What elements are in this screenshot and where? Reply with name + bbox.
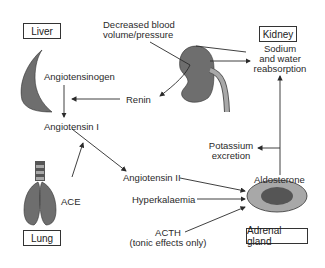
decreased-bp-line2: volume/pressure xyxy=(103,30,173,40)
lung-label-box: Lung xyxy=(23,230,61,246)
kidney-icon xyxy=(180,46,227,112)
lung-icon xyxy=(24,161,56,225)
kidney-label-box: Kidney xyxy=(259,26,297,42)
sodium-line3: reabsorption xyxy=(250,64,310,74)
acth-line2: (tonic effects only) xyxy=(128,238,208,248)
liver-label-box: Liver xyxy=(23,23,61,39)
sodium-reabsorption-label: Sodium and water reabsorption xyxy=(250,44,310,74)
adrenal-label-box: Adrenal gland xyxy=(246,228,308,244)
aldosterone-label: Aldosterone xyxy=(254,175,305,185)
ace-label: ACE xyxy=(61,197,81,207)
angiotensin-ii-label: Angiotensin II xyxy=(123,173,181,183)
decreased-bp-label: Decreased blood volume/pressure xyxy=(103,20,173,40)
hyperkalaemia-label: Hyperkalaemia xyxy=(132,195,195,205)
potassium-excretion-label: Potassium excretion xyxy=(206,141,256,161)
potassium-line2: excretion xyxy=(206,151,256,161)
acth-label: ACTH (tonic effects only) xyxy=(128,228,208,248)
angiotensinogen-label: Angiotensinogen xyxy=(44,72,115,82)
renin-label: Renin xyxy=(126,95,151,105)
angiotensin-i-label: Angiotensin I xyxy=(44,122,99,132)
